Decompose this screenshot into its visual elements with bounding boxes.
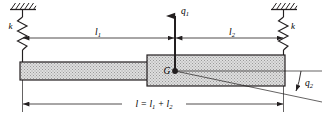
spring-constant-label-right: k — [291, 21, 296, 31]
dimension-l2: l2 — [176, 27, 283, 38]
beam-section-thin — [20, 62, 148, 80]
center-of-mass-label: G — [164, 66, 171, 76]
diagram-svg: k k l1 l2 q1 — [0, 0, 326, 127]
ceiling-support-left — [10, 3, 36, 10]
dimension-total-length: l = l1 + l2 — [23, 97, 283, 110]
coordinate-q2-label: q2 — [305, 78, 314, 89]
coordinate-q1-label: q1 — [181, 6, 189, 17]
dimension-l1: l1 — [23, 27, 174, 38]
figure-canvas: k k l1 l2 q1 — [0, 0, 326, 127]
length-l2-label: l2 — [229, 27, 236, 38]
coordinate-q2-arc — [296, 71, 301, 91]
spring-right — [279, 10, 289, 56]
length-l1-label: l1 — [95, 27, 101, 38]
hatch-lines-right — [272, 3, 297, 10]
ceiling-support-right — [271, 3, 297, 10]
spring-constant-label-left: k — [9, 21, 14, 31]
total-length-label: l = l1 + l2 — [136, 99, 174, 110]
hatch-lines-left — [11, 3, 36, 10]
